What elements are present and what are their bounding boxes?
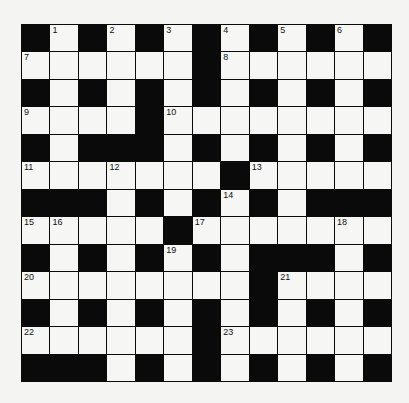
answer-cell[interactable] (221, 135, 248, 161)
answer-cell[interactable] (79, 327, 106, 353)
answer-cell[interactable] (136, 272, 163, 298)
answer-cell[interactable]: 8 (221, 52, 248, 78)
answer-cell[interactable] (307, 327, 334, 353)
answer-cell[interactable] (335, 327, 362, 353)
answer-cell[interactable]: 22 (22, 327, 49, 353)
answer-cell[interactable] (364, 52, 391, 78)
answer-cell[interactable]: 11 (22, 162, 49, 188)
answer-cell[interactable] (136, 327, 163, 353)
answer-cell[interactable] (164, 300, 191, 326)
answer-cell[interactable] (335, 80, 362, 106)
answer-cell[interactable] (250, 107, 277, 133)
answer-cell[interactable] (193, 162, 220, 188)
answer-cell[interactable] (335, 135, 362, 161)
answer-cell[interactable] (164, 190, 191, 216)
answer-cell[interactable] (335, 107, 362, 133)
answer-cell[interactable] (107, 80, 134, 106)
answer-cell[interactable]: 14 (221, 190, 248, 216)
answer-cell[interactable] (335, 272, 362, 298)
answer-cell[interactable] (221, 300, 248, 326)
answer-cell[interactable] (307, 52, 334, 78)
answer-cell[interactable] (79, 52, 106, 78)
answer-cell[interactable] (278, 107, 305, 133)
answer-cell[interactable] (50, 327, 77, 353)
answer-cell[interactable] (107, 190, 134, 216)
answer-cell[interactable] (107, 355, 134, 381)
answer-cell[interactable] (107, 327, 134, 353)
answer-cell[interactable] (278, 355, 305, 381)
answer-cell[interactable] (193, 272, 220, 298)
answer-cell[interactable] (50, 135, 77, 161)
answer-cell[interactable]: 12 (107, 162, 134, 188)
answer-cell[interactable] (136, 52, 163, 78)
answer-cell[interactable] (278, 190, 305, 216)
answer-cell[interactable] (278, 162, 305, 188)
answer-cell[interactable] (50, 272, 77, 298)
answer-cell[interactable] (250, 327, 277, 353)
answer-cell[interactable] (79, 272, 106, 298)
answer-cell[interactable] (364, 217, 391, 243)
answer-cell[interactable] (364, 162, 391, 188)
answer-cell[interactable] (335, 52, 362, 78)
answer-cell[interactable] (221, 245, 248, 271)
answer-cell[interactable] (50, 107, 77, 133)
answer-cell[interactable] (278, 300, 305, 326)
answer-cell[interactable] (335, 300, 362, 326)
answer-cell[interactable] (164, 162, 191, 188)
answer-cell[interactable] (278, 135, 305, 161)
answer-cell[interactable] (364, 272, 391, 298)
answer-cell[interactable] (307, 272, 334, 298)
answer-cell[interactable]: 5 (278, 25, 305, 51)
answer-cell[interactable] (107, 52, 134, 78)
answer-cell[interactable] (164, 52, 191, 78)
answer-cell[interactable]: 3 (164, 25, 191, 51)
answer-cell[interactable] (193, 107, 220, 133)
answer-cell[interactable]: 20 (22, 272, 49, 298)
answer-cell[interactable] (221, 355, 248, 381)
answer-cell[interactable]: 23 (221, 327, 248, 353)
answer-cell[interactable]: 17 (193, 217, 220, 243)
answer-cell[interactable] (107, 245, 134, 271)
answer-cell[interactable]: 18 (335, 217, 362, 243)
answer-cell[interactable]: 10 (164, 107, 191, 133)
answer-cell[interactable] (221, 272, 248, 298)
answer-cell[interactable] (278, 327, 305, 353)
answer-cell[interactable]: 4 (221, 25, 248, 51)
answer-cell[interactable] (221, 80, 248, 106)
answer-cell[interactable]: 13 (250, 162, 277, 188)
answer-cell[interactable] (79, 162, 106, 188)
answer-cell[interactable] (364, 327, 391, 353)
answer-cell[interactable] (50, 52, 77, 78)
answer-cell[interactable] (164, 272, 191, 298)
answer-cell[interactable] (250, 217, 277, 243)
answer-cell[interactable] (307, 217, 334, 243)
answer-cell[interactable] (79, 217, 106, 243)
answer-cell[interactable]: 15 (22, 217, 49, 243)
answer-cell[interactable] (164, 327, 191, 353)
answer-cell[interactable] (278, 80, 305, 106)
answer-cell[interactable] (335, 245, 362, 271)
answer-cell[interactable] (221, 107, 248, 133)
answer-cell[interactable] (50, 300, 77, 326)
answer-cell[interactable] (278, 52, 305, 78)
answer-cell[interactable] (50, 162, 77, 188)
answer-cell[interactable] (136, 162, 163, 188)
answer-cell[interactable] (164, 355, 191, 381)
answer-cell[interactable]: 7 (22, 52, 49, 78)
answer-cell[interactable] (335, 355, 362, 381)
answer-cell[interactable]: 19 (164, 245, 191, 271)
answer-cell[interactable] (364, 107, 391, 133)
answer-cell[interactable] (107, 217, 134, 243)
answer-cell[interactable] (50, 245, 77, 271)
answer-cell[interactable]: 16 (50, 217, 77, 243)
answer-cell[interactable] (335, 162, 362, 188)
answer-cell[interactable]: 2 (107, 25, 134, 51)
answer-cell[interactable] (50, 80, 77, 106)
answer-cell[interactable] (79, 107, 106, 133)
answer-cell[interactable] (136, 217, 163, 243)
answer-cell[interactable] (250, 52, 277, 78)
answer-cell[interactable]: 21 (278, 272, 305, 298)
answer-cell[interactable] (107, 300, 134, 326)
answer-cell[interactable]: 6 (335, 25, 362, 51)
answer-cell[interactable] (164, 80, 191, 106)
